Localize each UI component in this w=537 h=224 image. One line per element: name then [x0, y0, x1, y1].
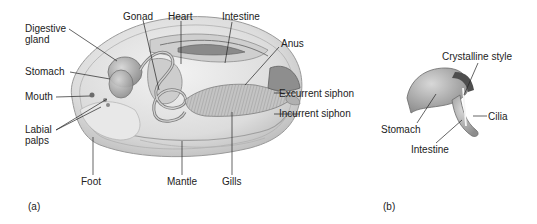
bivalve-anatomy-figure: Digestive gland Gonad Heart Intestine An…	[0, 0, 537, 224]
label-gills: Gills	[222, 176, 241, 187]
label-foot: Foot	[81, 176, 101, 187]
label-line: Labial	[25, 124, 52, 135]
label-cilia: Cilia	[488, 111, 507, 122]
label-line: gland	[25, 34, 49, 45]
label-incurrent-siphon: Incurrent siphon	[279, 108, 351, 119]
mouth-spot	[90, 93, 95, 98]
label-anus: Anus	[281, 38, 304, 49]
label-mouth: Mouth	[25, 91, 53, 102]
label-line: Digestive	[25, 23, 66, 34]
label-intestine-b: Intestine	[411, 144, 449, 155]
label-mantle: Mantle	[167, 176, 197, 187]
label-intestine: Intestine	[222, 11, 260, 22]
label-gonad: Gonad	[123, 11, 153, 22]
label-digestive-gland: Digestive gland	[25, 23, 66, 45]
label-stomach: Stomach	[25, 66, 64, 77]
panel-label-a: (a)	[28, 201, 40, 212]
label-crystalline-style: Crystalline style	[442, 51, 512, 62]
label-heart: Heart	[168, 11, 192, 22]
diagram-art	[0, 0, 537, 224]
label-line: palps	[25, 135, 49, 146]
label-labial-palps: Labial palps	[25, 124, 52, 146]
panel-label-b: (b)	[383, 201, 395, 212]
label-stomach-b: Stomach	[381, 124, 420, 135]
label-excurrent-siphon: Excurrent siphon	[279, 88, 354, 99]
